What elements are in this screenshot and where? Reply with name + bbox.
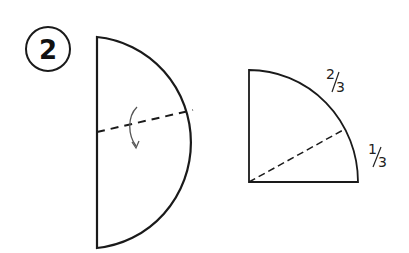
semicircle-outline — [97, 37, 191, 248]
semicircle-shape — [97, 37, 193, 248]
fraction-numerator: 2 — [326, 66, 335, 82]
step-number: 2 — [39, 35, 57, 65]
curved-arrow-icon — [130, 107, 137, 146]
diagram-canvas: 2 2 3 1 3 — [0, 0, 409, 253]
fold-line-dashed — [97, 110, 193, 132]
quarter-circle-shape: 2 3 1 3 — [249, 66, 387, 182]
division-line-dashed — [249, 129, 345, 182]
fraction-numerator: 1 — [368, 141, 377, 157]
fraction-two-thirds: 2 3 — [326, 66, 345, 95]
fraction-denominator: 3 — [336, 79, 345, 95]
step-badge: 2 — [26, 27, 70, 71]
fraction-one-third: 1 3 — [368, 141, 387, 170]
fraction-denominator: 3 — [378, 154, 387, 170]
